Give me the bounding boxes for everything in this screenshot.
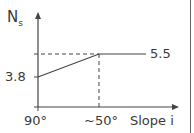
x-axis-label: Slope i <box>130 114 174 128</box>
y-tick-3-8: 3.8 <box>5 70 26 84</box>
y-tick-5-5: 5.5 <box>150 47 171 61</box>
x-tick-50: ~50° <box>84 114 118 128</box>
x-axis-arrow-icon <box>172 104 179 110</box>
data-line <box>38 54 146 77</box>
x-tick-90: 90° <box>24 114 47 128</box>
y-axis-arrow-icon <box>35 12 41 19</box>
y-axis-label: Ns <box>7 10 23 30</box>
